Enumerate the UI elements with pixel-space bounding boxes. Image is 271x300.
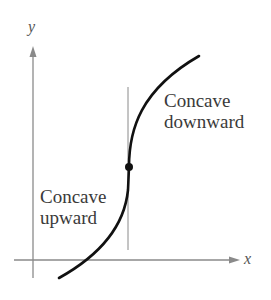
concavity-diagram: y x Concave downward Concave upward: [0, 0, 271, 300]
concave-upward-label: Concave upward: [40, 186, 106, 228]
y-axis-arrow-icon: [30, 46, 37, 57]
concave-downward-label: Concave downward: [164, 90, 244, 132]
diagram-graphics: [0, 0, 271, 300]
inflection-point: [125, 163, 133, 171]
x-axis: [14, 257, 240, 264]
x-axis-arrow-icon: [229, 257, 240, 264]
y-axis-label: y: [28, 18, 35, 36]
y-axis: [30, 46, 37, 278]
x-axis-label: x: [244, 250, 251, 268]
